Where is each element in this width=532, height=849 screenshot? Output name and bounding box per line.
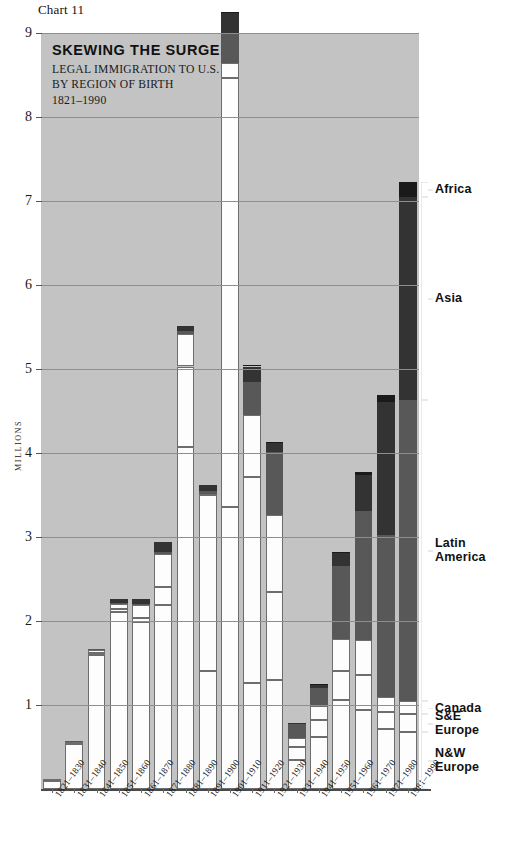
legend-label-line: Europe	[435, 760, 479, 774]
y-tick-mark	[36, 537, 42, 538]
bar-segment	[288, 723, 306, 725]
legend-bracket-stub	[428, 550, 433, 552]
y-tick-mark	[36, 117, 42, 118]
y-tick-label: 8	[6, 109, 32, 125]
gridline	[41, 537, 419, 538]
bar-segment	[221, 13, 239, 33]
legend-bracket-stub	[428, 723, 433, 725]
legend-label[interactable]: LatinAmerica	[435, 536, 486, 564]
bar-segment	[399, 182, 417, 197]
bar-segment	[221, 507, 239, 789]
bar-segment	[288, 747, 306, 760]
gridline	[41, 117, 419, 118]
bar-segment	[332, 553, 350, 566]
legend-bracket	[421, 197, 428, 400]
bar-segment	[399, 400, 417, 701]
bar-segment	[332, 639, 350, 671]
bar-segment	[199, 491, 217, 494]
legend-label[interactable]: N&WEurope	[435, 746, 479, 774]
bar-segment	[154, 554, 172, 588]
bar-segment	[399, 701, 417, 714]
legend-label-line: S&E	[435, 709, 479, 723]
legend-bracket-stub	[428, 760, 433, 762]
y-axis	[6, 33, 36, 789]
bar-segment	[43, 779, 61, 781]
bar-segment	[355, 640, 373, 674]
gridline	[41, 285, 419, 286]
bar-segment	[199, 495, 217, 671]
bar-segment	[88, 649, 106, 651]
legend-label-line: America	[435, 550, 486, 564]
bar-segment	[110, 603, 128, 605]
bar-segment	[288, 738, 306, 747]
bar-segment	[332, 566, 350, 639]
bar-segment	[310, 720, 328, 737]
bar-segment	[199, 485, 217, 491]
bar-segment	[88, 650, 106, 653]
bar-segment	[266, 452, 284, 515]
bar-segment	[310, 685, 328, 688]
legend-label[interactable]: S&EEurope	[435, 709, 479, 737]
legend-label[interactable]: Asia	[435, 291, 462, 305]
bar-segment	[132, 605, 150, 618]
y-tick-mark	[36, 285, 42, 286]
bar-segment	[355, 475, 373, 511]
bar-segment	[221, 12, 239, 13]
legend-bracket	[421, 400, 428, 701]
bar-segment	[243, 382, 261, 415]
bar-segment	[65, 741, 83, 742]
y-tick-label: 3	[6, 529, 32, 545]
bar-segment	[377, 395, 395, 402]
bar-segment	[221, 63, 239, 78]
bar-segment	[355, 472, 373, 475]
bar-segment	[377, 402, 395, 536]
chart-figure: Chart 11 MILLIONS SKEWING THE SURGE LEGA…	[0, 0, 532, 849]
y-tick-label: 5	[6, 361, 32, 377]
bar-segment	[243, 477, 261, 683]
bar-segment	[177, 334, 195, 367]
y-tick-label: 2	[6, 613, 32, 629]
bar-segment	[110, 609, 128, 612]
bar-segment	[154, 542, 172, 552]
legend-label[interactable]: Africa	[435, 182, 472, 196]
gridline	[41, 621, 419, 622]
legend-label-line: N&W	[435, 746, 479, 760]
legend-bracket	[421, 182, 428, 197]
bar-segment	[154, 552, 172, 554]
legend: AfricaAsiaLatinAmericaCanadaS&EEuropeN&W…	[421, 33, 532, 789]
legend-bracket	[421, 701, 428, 714]
gridline	[41, 705, 419, 706]
legend-bracket-stub	[428, 708, 433, 710]
bar-segment	[310, 706, 328, 720]
bar-segment	[110, 599, 128, 602]
bar-segment	[243, 415, 261, 477]
bar-segment	[288, 724, 306, 737]
y-tick-mark	[36, 33, 42, 34]
bar-segment	[266, 443, 284, 452]
bar-segment	[177, 367, 195, 448]
figure-caption: Chart 11	[38, 2, 84, 18]
bar-segment	[377, 535, 395, 697]
y-tick-label: 4	[6, 445, 32, 461]
y-tick-label: 6	[6, 277, 32, 293]
bar-segment	[177, 326, 195, 331]
legend-bracket-stub	[428, 189, 433, 191]
y-tick-mark	[36, 201, 42, 202]
gridline	[41, 453, 419, 454]
y-tick-mark	[36, 705, 42, 706]
y-tick-mark	[36, 369, 42, 370]
bar-segment	[154, 587, 172, 605]
legend-bracket	[421, 732, 428, 789]
bar-segment	[377, 712, 395, 729]
y-tick-label: 7	[6, 193, 32, 209]
y-tick-label: 1	[6, 697, 32, 713]
bar-segment	[110, 604, 128, 609]
bar-segment	[177, 447, 195, 789]
legend-bracket-stub	[428, 298, 433, 300]
bar-segment	[266, 592, 284, 679]
bar-segment	[399, 714, 417, 732]
bar-segment	[266, 515, 284, 592]
bar-segment	[132, 599, 150, 604]
gridline	[41, 33, 419, 34]
bar-segment	[243, 365, 261, 366]
